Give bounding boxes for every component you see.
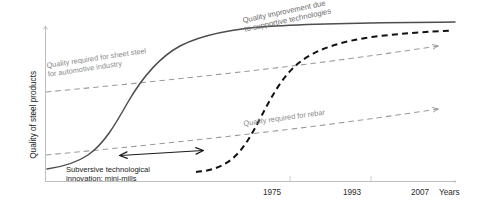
series-mini-mills: [196, 31, 452, 173]
x-axis-title: Years: [439, 188, 460, 198]
y-axis-title: Quality of steel products: [29, 45, 39, 185]
x-tick-label-1975: 1975: [252, 188, 292, 198]
x-tick-label-2007: 2007: [400, 188, 440, 198]
label-subversive-innovation: Subversive technological innovation: min…: [66, 166, 150, 184]
series-quality-improvement: [47, 22, 455, 169]
axis-lines: [44, 26, 457, 183]
chart-figure: Quality of steel products Quality improv…: [0, 0, 480, 215]
label-subversive-line2: innovation: mini-mills: [66, 175, 150, 184]
x-axis-ticks: [290, 176, 371, 181]
time-lag-arrow: [120, 151, 203, 156]
x-tick-label-1993: 1993: [332, 188, 372, 198]
